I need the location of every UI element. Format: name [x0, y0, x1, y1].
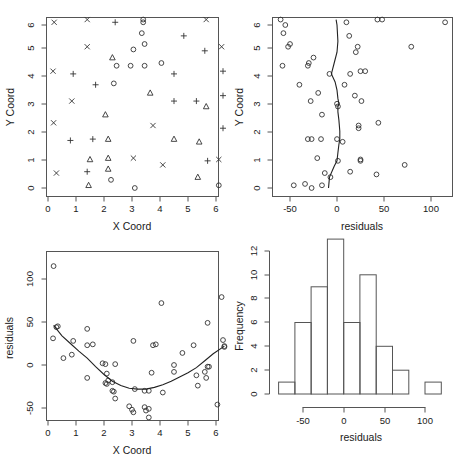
point-circle: [308, 99, 313, 104]
point-circle: [109, 177, 114, 182]
panel-top-right-scatter: -50 0 50 100 residuals 0 1 2 3 4: [234, 0, 467, 238]
panel-top-right-svg: -50 0 50 100 residuals 0 1 2 3 4: [234, 0, 467, 238]
point-circle: [309, 186, 314, 191]
y-tick-label: 6: [248, 319, 259, 324]
point-circle: [113, 362, 118, 367]
point-plus: [70, 71, 76, 77]
point-triangle: [105, 166, 111, 171]
point-circle: [172, 363, 177, 368]
point-cross: [51, 120, 56, 125]
plot-frame: [47, 18, 219, 197]
y-axis-tick-labels: 0 2 4 6 8 10 12: [248, 246, 259, 397]
x-axis-title: X Coord: [113, 220, 152, 232]
x-tick-label: 0: [341, 415, 346, 426]
y-tick-label: 50: [24, 317, 35, 328]
point-plus: [171, 71, 177, 77]
point-plus: [220, 93, 226, 99]
scatter-points: [278, 17, 447, 190]
point-circle: [103, 362, 108, 367]
point-triangle: [87, 156, 93, 161]
x-tick-label: 1: [73, 427, 78, 438]
point-circle: [359, 99, 364, 104]
y-axis-title: Y Coord: [234, 88, 245, 126]
point-circle: [153, 342, 158, 347]
point-circle: [320, 183, 325, 188]
point-circle: [149, 370, 154, 375]
y-tick-label: -50: [24, 401, 35, 415]
point-circle: [219, 295, 224, 300]
lowess-curve: [54, 325, 225, 389]
x-tick-label: -50: [283, 203, 297, 214]
point-circle: [160, 390, 165, 395]
x-tick-label: 6: [213, 427, 218, 438]
point-cross: [150, 123, 155, 128]
point-circle: [191, 343, 196, 348]
point-circle: [348, 169, 353, 174]
x-tick-label: 0: [45, 427, 50, 438]
x-tick-label: 0: [334, 203, 339, 214]
point-circle: [128, 63, 133, 68]
point-circle: [111, 389, 116, 394]
point-circle: [402, 163, 407, 168]
point-circle: [159, 301, 164, 306]
y-tick-label: 3: [25, 101, 36, 106]
y-axis-ticks: [268, 25, 273, 188]
x-axis-tick-labels: 0 1 2 3 4 5 6: [45, 203, 218, 214]
point-cross: [69, 98, 74, 103]
y-tick-label: 2: [251, 129, 262, 134]
y-tick-label: 0: [251, 185, 262, 190]
point-circle: [215, 402, 220, 407]
point-circle: [340, 139, 345, 144]
point-plus: [90, 136, 96, 142]
point-cross: [85, 44, 90, 49]
point-circle: [352, 93, 357, 98]
point-circle: [51, 336, 56, 341]
point-circle: [90, 342, 95, 347]
point-plus: [193, 98, 199, 104]
x-tick-label: 0: [45, 203, 50, 214]
point-circle: [342, 82, 347, 87]
x-tick-label: 4: [157, 427, 162, 438]
point-circle: [195, 383, 200, 388]
histogram-bar: [425, 382, 441, 394]
point-circle: [311, 55, 316, 60]
point-circle: [172, 369, 177, 374]
x-axis-title: X Coord: [113, 444, 152, 456]
point-circle: [69, 352, 74, 357]
x-tick-label: 3: [129, 427, 134, 438]
x-tick-label: 6: [213, 203, 218, 214]
x-axis-title: residuals: [340, 431, 382, 443]
scatter-points: [51, 264, 227, 420]
point-circle: [303, 182, 308, 187]
point-triangle: [103, 112, 109, 117]
point-circle: [113, 396, 118, 401]
point-circle: [358, 69, 363, 74]
point-cross: [160, 162, 165, 167]
point-cross: [50, 69, 55, 74]
histogram-bar: [279, 382, 295, 394]
y-tick-label: 100: [24, 271, 35, 287]
point-plus: [220, 125, 226, 131]
point-circle: [443, 20, 448, 25]
point-circle: [344, 20, 349, 25]
point-circle: [194, 373, 199, 378]
y-axis-tick-labels: 0 1 2 3 4 5 6: [251, 22, 262, 190]
point-plus: [93, 82, 99, 88]
point-circle: [131, 339, 136, 344]
point-circle: [320, 112, 325, 117]
y-tick-label: 4: [25, 73, 36, 78]
point-circle: [297, 82, 302, 87]
y-axis-ticks: [42, 25, 47, 188]
point-circle: [159, 61, 164, 66]
point-circle: [283, 23, 288, 28]
point-circle: [281, 31, 286, 36]
point-circle: [85, 376, 90, 381]
x-tick-label: 50: [379, 203, 390, 214]
point-plus: [202, 48, 208, 54]
point-triangle: [86, 182, 92, 187]
histogram-bar: [344, 323, 360, 395]
point-circle: [355, 44, 360, 49]
panel-bottom-right-svg: 0 2 4 6 8 10 12 Frequency -50 0: [234, 238, 467, 476]
x-axis-title: residuals: [341, 220, 383, 232]
four-panel-figure: 0 1 2 3 4 5 6 X Coord 0: [0, 0, 467, 476]
